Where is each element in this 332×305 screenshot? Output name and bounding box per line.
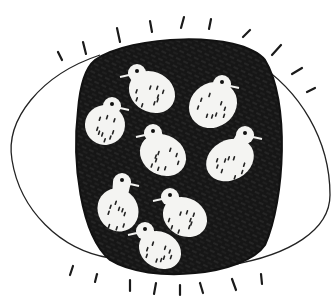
- bird-eye-icon: [168, 193, 172, 197]
- eye-drawing: [0, 0, 332, 305]
- eye-illustration: [0, 0, 332, 305]
- bird-eye-icon: [151, 129, 155, 133]
- bird-eye-icon: [135, 69, 139, 73]
- bird-eye-icon: [243, 131, 247, 135]
- bird-eye-icon: [120, 178, 124, 182]
- bird-eye-icon: [143, 227, 147, 231]
- bird-eye-icon: [110, 102, 114, 106]
- bird-eye-icon: [220, 80, 224, 84]
